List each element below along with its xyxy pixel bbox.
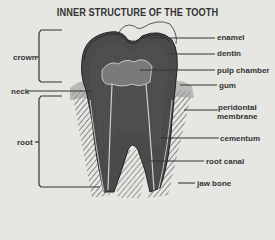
label-neck: neck <box>11 87 29 96</box>
pulp-chamber <box>102 60 152 86</box>
label-root: root <box>17 138 33 147</box>
label-membrane: membrane <box>217 112 257 121</box>
label-root-canal: root canal <box>206 157 244 166</box>
label-gum: gum <box>219 81 236 90</box>
label-peridontal: peridontal <box>218 103 257 112</box>
label-jaw-bone: jaw bone <box>197 179 231 188</box>
label-enamel: enamel <box>217 33 245 42</box>
label-pulp-chamber: pulp chamber <box>217 66 269 75</box>
label-crown: crown <box>13 53 37 62</box>
label-cementum: cementum <box>220 134 260 143</box>
label-dentin: dentin <box>217 49 241 58</box>
